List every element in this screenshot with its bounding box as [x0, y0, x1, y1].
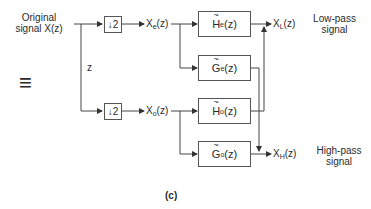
- even-signal-base: X: [146, 18, 153, 29]
- output-low-tail: (z): [284, 18, 296, 29]
- low-pass-line2: signal: [307, 24, 362, 35]
- low-pass-label: Low-pass signal: [307, 13, 362, 35]
- output-high-tail: (z): [285, 148, 297, 159]
- filter-he-base: H: [212, 18, 220, 30]
- low-pass-line1: Low-pass: [307, 13, 362, 24]
- downsampler-top: ↓2: [104, 16, 122, 33]
- filter-go-tail: (z): [224, 148, 237, 160]
- filter-ge-base: G: [212, 62, 221, 74]
- high-pass-label: High-pass signal: [310, 145, 368, 167]
- odd-signal-base: X: [146, 105, 153, 116]
- even-signal-tail: (z): [157, 18, 169, 29]
- input-label: Original signal X(z): [4, 12, 74, 34]
- filter-ge: Ge(z): [198, 55, 251, 81]
- high-pass-line2: signal: [310, 156, 368, 167]
- equivalence-icon: ≡: [19, 72, 32, 94]
- output-high-base: X: [273, 148, 280, 159]
- odd-signal-tail: (z): [157, 105, 169, 116]
- filter-go-base: G: [212, 148, 221, 160]
- filter-ho-base: H: [212, 105, 220, 117]
- filter-ge-tail: (z): [224, 62, 237, 74]
- delay-label: z: [87, 62, 92, 73]
- filter-ho: Ho(z): [198, 98, 251, 124]
- figure-caption: (c): [165, 190, 177, 201]
- downsampler-bottom: ↓2: [104, 103, 122, 120]
- odd-signal-label: Xo(z): [146, 105, 168, 119]
- high-pass-line1: High-pass: [310, 145, 368, 156]
- filter-he: He(z): [198, 11, 251, 37]
- input-label-line2: signal X(z): [4, 23, 74, 34]
- filter-ho-tail: (z): [224, 105, 237, 117]
- even-signal-label: Xe(z): [146, 18, 168, 32]
- output-high-label: XH(z): [273, 148, 296, 162]
- input-label-line1: Original: [4, 12, 74, 23]
- output-low-label: XL(z): [273, 18, 295, 32]
- filter-he-tail: (z): [224, 18, 237, 30]
- output-low-base: X: [273, 18, 280, 29]
- filter-go: Go(z): [198, 141, 251, 167]
